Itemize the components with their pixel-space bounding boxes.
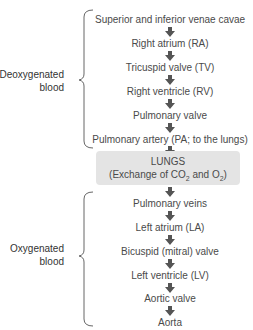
deoxygenated-brace-icon	[76, 8, 96, 150]
step-bicuspid-valve: Bicuspid (mitral) valve	[95, 246, 245, 258]
text: )	[224, 169, 227, 180]
down-arrow-icon	[164, 283, 176, 293]
oxygenated-blood-label: Oxygenated blood	[10, 242, 64, 268]
label-line: Deoxygenated	[0, 68, 64, 81]
step-tricuspid-valve: Tricuspid valve (TV)	[95, 62, 245, 74]
step-pulmonary-valve: Pulmonary valve	[95, 110, 245, 122]
down-arrow-icon	[164, 306, 176, 316]
step-left-ventricle: Left ventricle (LV)	[95, 270, 245, 282]
step-aortic-valve: Aortic valve	[95, 293, 245, 305]
label-line: blood	[0, 81, 64, 94]
down-arrow-icon	[164, 99, 176, 109]
down-arrow-icon	[164, 235, 176, 245]
down-arrow-icon	[164, 259, 176, 269]
step-right-atrium: Right atrium (RA)	[95, 38, 245, 50]
label-line: Oxygenated	[10, 242, 64, 255]
down-arrow-icon	[164, 51, 176, 61]
lungs-exchange-text: (Exchange of CO2 and O2)	[96, 168, 240, 185]
lungs-title: LUNGS	[96, 155, 240, 168]
step-right-ventricle: Right ventricle (RV)	[95, 86, 245, 98]
text: (Exchange of CO	[109, 169, 186, 180]
label-line: blood	[10, 255, 64, 268]
down-arrow-icon	[164, 187, 176, 197]
step-pulmonary-veins: Pulmonary veins	[95, 198, 245, 210]
down-arrow-icon	[164, 211, 176, 221]
down-arrow-icon	[164, 27, 176, 37]
down-arrow-icon	[164, 75, 176, 85]
lungs-box: LUNGS (Exchange of CO2 and O2)	[96, 151, 240, 185]
deoxygenated-blood-label: Deoxygenated blood	[0, 68, 64, 94]
step-left-atrium: Left atrium (LA)	[95, 222, 245, 234]
oxygenated-brace-icon	[76, 190, 96, 330]
step-aorta: Aorta	[95, 317, 245, 329]
down-arrow-icon	[164, 123, 176, 133]
text: and O	[190, 169, 220, 180]
step-pulmonary-artery: Pulmonary artery (PA; to the lungs)	[88, 134, 252, 146]
step-venae-cavae: Superior and inferior venae cavae	[95, 14, 245, 26]
